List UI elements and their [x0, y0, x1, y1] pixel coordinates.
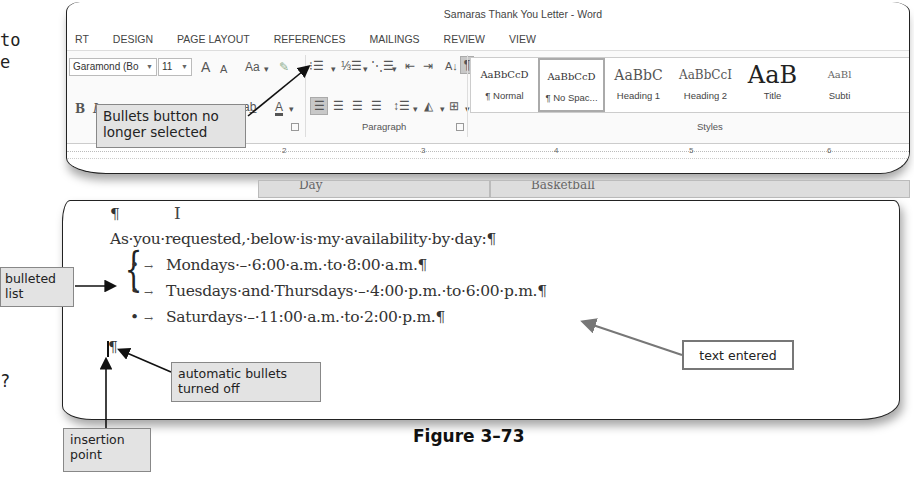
style-sample: AaBl — [806, 58, 873, 90]
numbering-button[interactable]: ⅓☰ — [341, 58, 362, 74]
style-name: ¶ No Spac... — [540, 92, 603, 103]
shrink-font-button[interactable]: A — [220, 61, 227, 77]
grow-font-button[interactable]: A — [201, 59, 210, 75]
callout-bullets-button: Bullets button no longer selected — [96, 104, 246, 148]
font-name-value: Garamond (Bo — [73, 61, 139, 72]
ruler-number: 4 — [554, 146, 558, 155]
bullet-icon: • — [130, 308, 144, 326]
bold-button[interactable]: B — [75, 101, 85, 117]
borders-button[interactable]: ⊞ — [449, 98, 459, 114]
increase-indent-button[interactable]: ⇥ — [423, 58, 433, 74]
ruler-number: 3 — [421, 146, 425, 155]
style-name: Subti — [806, 90, 873, 101]
font-color-icon[interactable]: A — [275, 99, 283, 115]
group-separator — [467, 55, 468, 137]
bullet-icon: • — [130, 282, 144, 300]
chevron-down-icon[interactable]: ▾ — [363, 61, 368, 77]
style-normal[interactable]: AaBbCcD ¶ Normal — [471, 58, 538, 112]
callout-bulleted-list: bulleted list — [0, 267, 74, 307]
margin-text-fragment: ? — [0, 371, 10, 391]
table-cell-text: Basketball — [531, 180, 595, 192]
style-sample: AaBbCcI — [672, 58, 739, 90]
tab-arrow-icon: → — [144, 312, 166, 325]
tab-arrow-icon: → — [144, 286, 166, 299]
style-name: Heading 1 — [605, 90, 672, 101]
font-name-dropdown[interactable]: Garamond (Bo ▼ — [69, 58, 157, 76]
change-case-button[interactable]: Aa — [245, 59, 260, 75]
bullets-button[interactable]: ⁝☰ — [309, 58, 324, 74]
tab-references[interactable]: REFERENCES — [262, 30, 358, 48]
ruler-number: 5 — [689, 146, 693, 155]
style-name: Heading 2 — [672, 90, 739, 101]
callout-insertion-point: insertion point — [63, 428, 151, 472]
chevron-down-icon[interactable]: ▾ — [413, 101, 418, 117]
word-window-top: Samaras Thank You Letter - Word RT DESIG… — [66, 2, 910, 174]
font-size-value: 11 — [162, 61, 172, 72]
style-name: Title — [739, 90, 806, 101]
ruler-number: 2 — [282, 146, 286, 155]
table-cell-peek: Basketball — [490, 180, 910, 198]
styles-group-label: Styles — [697, 121, 723, 132]
decrease-indent-button[interactable]: ⇤ — [405, 58, 415, 74]
style-sample: AaB — [739, 58, 806, 90]
bullet-list-item[interactable]: •→Tuesdays·and·Thursdays·–·4:00·p.m.·to·… — [130, 282, 547, 300]
bullet-list-item[interactable]: •→Saturdays·–·11:00·a.m.·to·2:00·p.m.¶ — [130, 308, 445, 326]
style-sample: AaBbC — [605, 58, 672, 90]
style-heading-1[interactable]: AaBbC Heading 1 — [605, 58, 672, 112]
margin-text-fragment: e — [0, 52, 10, 72]
clear-formatting-icon[interactable]: ✎ — [279, 59, 289, 75]
callout-text-entered: text entered — [682, 340, 794, 370]
sort-button[interactable]: A↓ — [445, 58, 458, 74]
callout-automatic-bullets: automatic bullets turned off — [171, 362, 321, 402]
style-title[interactable]: AaB Title — [739, 58, 806, 112]
center-button[interactable]: ☰ — [333, 98, 344, 114]
tab-view[interactable]: VIEW — [497, 30, 548, 48]
bullet-text: Saturdays·–·11:00·a.m.·to·2:00·p.m.¶ — [166, 308, 445, 326]
table-cell-text: Day — [299, 180, 323, 192]
chevron-down-icon: ▼ — [146, 59, 153, 75]
tab-insert[interactable]: RT — [67, 30, 101, 48]
paragraph-dialog-launcher-icon[interactable] — [456, 123, 464, 131]
styles-gallery: AaBbCcD ¶ Normal AaBbCcD ¶ No Spac... Aa… — [470, 57, 910, 113]
chevron-down-icon: ▼ — [181, 59, 188, 75]
empty-paragraph-mark: ¶ — [110, 205, 120, 223]
align-left-button[interactable]: ☰ — [310, 97, 328, 115]
ibeam-cursor-icon: I — [174, 203, 181, 223]
chevron-down-icon[interactable]: ▾ — [289, 101, 294, 117]
style-sample: AaBbCcD — [471, 58, 538, 90]
final-paragraph-mark: ¶ — [108, 338, 118, 356]
tab-page-layout[interactable]: PAGE LAYOUT — [165, 30, 262, 48]
font-size-dropdown[interactable]: 11 ▼ — [158, 58, 192, 76]
font-dialog-launcher-icon[interactable] — [291, 123, 299, 131]
tab-design[interactable]: DESIGN — [101, 30, 165, 48]
justify-button[interactable]: ☰ — [371, 98, 382, 114]
bullet-list-item[interactable]: •→Mondays·–·6:00·a.m.·to·8:00·a.m.¶ — [130, 256, 427, 274]
style-subtitle[interactable]: AaBl Subti — [806, 58, 873, 112]
tab-arrow-icon: → — [144, 260, 166, 273]
bullet-text: Tuesdays·and·Thursdays·–·4:00·p.m.·to·6:… — [166, 282, 547, 300]
style-no-spacing[interactable]: AaBbCcD ¶ No Spac... — [538, 58, 605, 112]
figure-caption: Figure 3–73 — [413, 426, 525, 446]
intro-line[interactable]: As·you·requested,·below·is·my·availabili… — [110, 230, 496, 248]
insertion-point-caret — [107, 341, 109, 357]
chevron-down-icon[interactable]: ▾ — [440, 101, 445, 117]
bullet-icon: • — [130, 256, 144, 274]
shading-button[interactable]: ◭ — [424, 98, 433, 114]
tab-review[interactable]: REVIEW — [432, 30, 497, 48]
multilevel-list-button[interactable]: ⋱☰ — [371, 58, 394, 74]
tab-mailings[interactable]: MAILINGS — [357, 30, 431, 48]
line-spacing-button[interactable]: ↕☰ — [393, 98, 410, 114]
ruler-ticks — [67, 151, 909, 152]
align-right-button[interactable]: ☰ — [352, 98, 363, 114]
table-cell-peek: Day — [258, 180, 490, 198]
ribbon-tabs: RT DESIGN PAGE LAYOUT REFERENCES MAILING… — [67, 30, 548, 48]
style-heading-2[interactable]: AaBbCcI Heading 2 — [672, 58, 739, 112]
style-sample: AaBbCcD — [540, 60, 603, 92]
chevron-down-icon[interactable]: ▾ — [264, 61, 269, 77]
chevron-down-icon[interactable]: ▾ — [392, 61, 397, 77]
paragraph-group-label: Paragraph — [362, 121, 406, 132]
bullet-text: Mondays·–·6:00·a.m.·to·8:00·a.m.¶ — [166, 256, 427, 274]
window-title: Samaras Thank You Letter - Word — [67, 2, 909, 26]
chevron-down-icon[interactable]: ▾ — [331, 61, 336, 77]
ruler-number: 6 — [827, 146, 831, 155]
